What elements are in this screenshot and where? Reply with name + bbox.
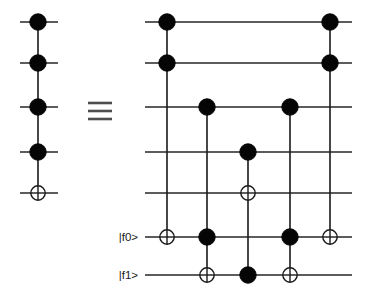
equivalence-symbol [88,103,112,119]
control-dot-q4[interactable] [30,144,46,160]
control-dot-q3[interactable] [282,99,298,115]
control-dot-q3[interactable] [199,99,215,115]
gate-column-4[interactable] [282,99,298,282]
wire-label-f0: |f0> [119,231,139,243]
quantum-circuit-diagram: |f0>|f1> [0,0,365,302]
wire-label-f1: |f1> [119,269,139,281]
gate-column-1[interactable] [30,14,46,200]
gate-column-1[interactable] [159,14,175,244]
gate-column-5[interactable] [322,14,338,244]
control-dot-f0[interactable] [282,229,298,245]
control-dot-q1[interactable] [30,14,46,30]
control-dot-q2[interactable] [159,55,175,71]
gate-column-2[interactable] [199,99,215,282]
control-dot-q2[interactable] [30,55,46,71]
control-dot-q1[interactable] [322,14,338,30]
control-dot-q1[interactable] [159,14,175,30]
control-dot-q3[interactable] [30,99,46,115]
control-dot-q2[interactable] [322,55,338,71]
gate-column-3[interactable] [240,144,256,283]
control-dot-f0[interactable] [199,229,215,245]
control-dot-q4[interactable] [240,144,256,160]
circuit-five-qubit-toffoli [20,14,58,200]
control-dot-f1[interactable] [240,267,256,283]
figure-canvas: |f0>|f1> [0,0,365,302]
circuit-toffoli-decomposition-with-ancillas [145,14,352,283]
